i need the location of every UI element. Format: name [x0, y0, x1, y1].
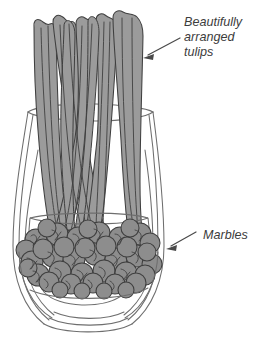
arrow-shaft [148, 38, 180, 55]
marble [38, 219, 56, 237]
tulip-stems-group [34, 11, 143, 239]
annotation-tulips-line-1: Beautifully [184, 15, 243, 29]
arrow-to-marbles [166, 232, 196, 251]
arrow-shaft [171, 232, 196, 246]
vase-base-oval [49, 318, 128, 325]
vase-base-oval-2 [54, 312, 124, 318]
marble [138, 243, 156, 261]
vase-illustration: Beautifully arranged tulips Marbles [0, 0, 256, 351]
marble [74, 283, 90, 299]
marble [75, 238, 95, 258]
marble [96, 283, 112, 299]
marble [117, 237, 137, 257]
marble [121, 219, 139, 237]
marble [52, 282, 68, 298]
tulip-stem-5 [113, 11, 143, 232]
annotation-tulips-line-3: tulips [184, 45, 214, 59]
arrow-to-tulips [143, 38, 180, 60]
marbles-group [16, 219, 162, 299]
annotation-tulips: Beautifully arranged tulips [143, 15, 243, 60]
annotation-marbles: Marbles [166, 228, 248, 251]
illustration-canvas: Beautifully arranged tulips Marbles [0, 0, 256, 351]
annotation-marbles-line-1: Marbles [203, 228, 248, 242]
annotation-tulips-line-2: arranged [184, 30, 235, 44]
